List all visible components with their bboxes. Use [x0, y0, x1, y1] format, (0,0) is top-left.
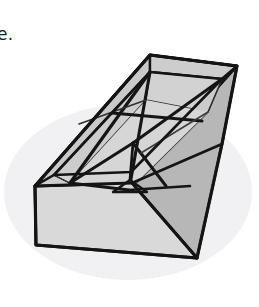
- open-box-svg: [0, 0, 259, 307]
- figure-page: se.: [0, 0, 259, 307]
- open-box-illustration: [0, 0, 259, 307]
